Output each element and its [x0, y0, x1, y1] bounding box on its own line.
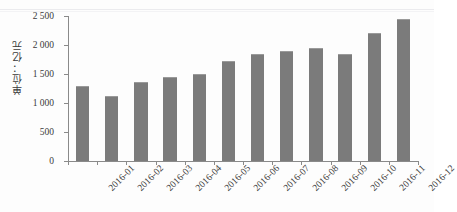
y-axis-tick: [64, 16, 68, 17]
y-axis-tick-label: 2 500: [33, 11, 54, 21]
bar-series: [68, 16, 418, 161]
bar: [76, 86, 89, 161]
x-axis-tick-label: 2016-03: [164, 163, 194, 193]
bar: [397, 19, 410, 161]
bar: [338, 54, 351, 161]
x-axis-tick-label: 2016-02: [135, 163, 165, 193]
bar: [105, 96, 118, 161]
x-axis-tick-label: 2016-11: [398, 163, 428, 193]
x-axis-tick-label: 2016-04: [194, 163, 224, 193]
x-axis-tick-label: 2016-08: [310, 163, 340, 193]
y-axis-tick: [64, 132, 68, 133]
bar: [193, 74, 206, 161]
y-axis-tick-labels: 05001 0001 5002 0002 500: [0, 16, 62, 161]
y-axis-tick-label: 1 000: [33, 98, 54, 108]
plot-area: [68, 16, 418, 161]
bar: [134, 82, 147, 161]
bar: [163, 77, 176, 161]
y-axis-tick-label: 0: [49, 156, 54, 166]
bar: [309, 48, 322, 161]
bar: [280, 51, 293, 161]
x-axis-tick-labels: 2016-012016-022016-032016-042016-052016-…: [68, 163, 418, 209]
y-axis-tick: [64, 45, 68, 46]
x-axis-tick-label: 2016-12: [427, 163, 457, 193]
x-axis-tick-label: 2016-05: [223, 163, 253, 193]
x-axis-tick-label: 2016-07: [281, 163, 311, 193]
x-axis-tick-label: 2016-09: [339, 163, 369, 193]
bar: [222, 61, 235, 161]
x-axis-tick-label: 2016-06: [252, 163, 282, 193]
x-axis-tick-label: 2016-01: [106, 163, 136, 193]
y-axis-tick: [64, 74, 68, 75]
scan-artifact-line: [0, 9, 434, 10]
scan-artifact-line-secondary: [0, 11, 434, 12]
x-axis-tick-label: 2016-10: [369, 163, 399, 193]
y-axis-tick-label: 1 500: [33, 69, 54, 79]
y-axis-tick: [64, 103, 68, 104]
bar: [251, 54, 264, 161]
y-axis-tick-label: 500: [40, 127, 54, 137]
bar: [368, 33, 381, 161]
y-axis-tick-label: 2 000: [33, 40, 54, 50]
